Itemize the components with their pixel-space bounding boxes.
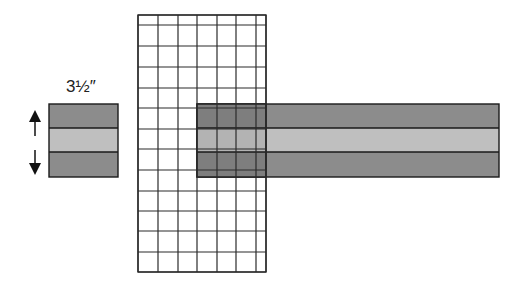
quilt-strip-diagram — [0, 0, 517, 289]
dark-band-bottom — [49, 152, 118, 177]
strip-set — [197, 104, 499, 177]
down-arrow-icon — [29, 163, 41, 175]
up-arrow-icon — [29, 110, 41, 122]
strip-set-swatch — [49, 104, 118, 177]
height-arrows — [29, 110, 41, 175]
light-band — [49, 128, 118, 152]
dark-band-top — [49, 104, 118, 128]
